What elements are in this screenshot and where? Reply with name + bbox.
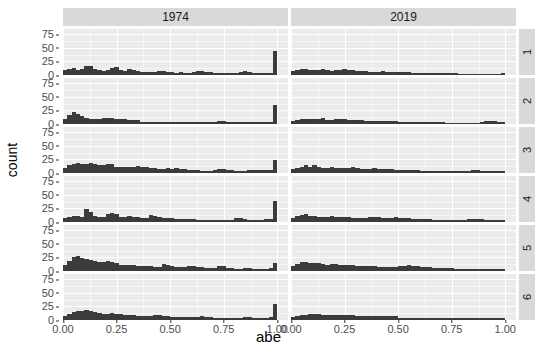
bar	[501, 269, 505, 271]
facet-strip-row-1: 1	[519, 29, 535, 75]
y-tick-75: 75	[42, 29, 54, 40]
y-tick-25: 25	[42, 154, 54, 165]
bar-series	[291, 225, 516, 271]
y-tick-25: 25	[42, 203, 54, 214]
y-tick-labels-row-1: 0255075	[22, 29, 60, 75]
facet-grid: 1974201902550751025507520255075302550754…	[22, 8, 535, 320]
y-tick-75: 75	[42, 78, 54, 89]
bar-series	[63, 29, 288, 75]
y-tick-50: 50	[42, 140, 54, 151]
facet-strip-row-label: 5	[521, 245, 533, 251]
panel-2019-2	[291, 78, 516, 124]
facet-strip-col-2019: 2019	[291, 8, 516, 26]
facet-strip-row-label: 6	[521, 294, 533, 300]
y-tick-labels-row-4: 0255075	[22, 176, 60, 222]
facet-strip-row-6: 6	[519, 274, 535, 320]
bar-series	[63, 78, 288, 124]
panel-2019-4	[291, 176, 516, 222]
y-axis-title-label: count	[4, 143, 20, 177]
panel-1974-2	[63, 78, 288, 124]
bar	[273, 160, 277, 173]
y-tick-75: 75	[42, 176, 54, 187]
facet-strip-row-label: 4	[521, 196, 533, 202]
bar	[273, 304, 277, 320]
y-tick-25: 25	[42, 301, 54, 312]
bar	[501, 122, 505, 124]
bar-series	[63, 127, 288, 173]
bar	[501, 220, 505, 222]
y-tick-labels-row-2: 0255075	[22, 78, 60, 124]
y-tick-50: 50	[42, 91, 54, 102]
bar	[273, 51, 277, 75]
y-tick-25: 25	[42, 105, 54, 116]
facet-strip-row-5: 5	[519, 225, 535, 271]
panel-2019-5	[291, 225, 516, 271]
facet-strip-row-2: 2	[519, 78, 535, 124]
bar-series	[291, 29, 516, 75]
bar-series	[291, 78, 516, 124]
x-axis-title: abe	[0, 328, 537, 345]
y-tick-75: 75	[42, 225, 54, 236]
y-tick-50: 50	[42, 238, 54, 249]
panel-1974-5	[63, 225, 288, 271]
panel-1974-4	[63, 176, 288, 222]
bar	[273, 263, 277, 271]
y-tick-75: 75	[42, 274, 54, 285]
panel-2019-3	[291, 127, 516, 173]
faceted-histogram-plot: count 1974201902550751025507520255075302…	[0, 0, 537, 355]
facet-strip-col-label: 1974	[162, 10, 189, 24]
bar-series	[63, 225, 288, 271]
x-axis-title-label: abe	[256, 328, 281, 345]
panel-1974-3	[63, 127, 288, 173]
bar	[273, 201, 277, 222]
y-tick-50: 50	[42, 42, 54, 53]
bar-series	[63, 176, 288, 222]
y-tick-50: 50	[42, 287, 54, 298]
y-tick-labels-row-5: 0255075	[22, 225, 60, 271]
y-tick-25: 25	[42, 252, 54, 263]
bar-series	[291, 127, 516, 173]
bar-series	[63, 274, 288, 320]
facet-strip-row-4: 4	[519, 176, 535, 222]
bar-series	[291, 176, 516, 222]
y-tick-labels-row-3: 0255075	[22, 127, 60, 173]
y-tick-75: 75	[42, 127, 54, 138]
panel-1974-1	[63, 29, 288, 75]
panel-1974-6	[63, 274, 288, 320]
panel-2019-1	[291, 29, 516, 75]
bar	[501, 73, 505, 75]
bar-series	[291, 274, 516, 320]
y-tick-50: 50	[42, 189, 54, 200]
panel-2019-6	[291, 274, 516, 320]
bar	[501, 171, 505, 173]
grid-corner-spacer	[22, 8, 60, 26]
y-tick-25: 25	[42, 56, 54, 67]
facet-strip-col-label: 2019	[390, 10, 417, 24]
facet-strip-row-label: 1	[521, 49, 533, 55]
facet-strip-row-label: 2	[521, 98, 533, 104]
y-tick-labels-row-6: 0255075	[22, 274, 60, 320]
facet-strip-row-label: 3	[521, 147, 533, 153]
facet-strip-row-3: 3	[519, 127, 535, 173]
facet-strip-col-1974: 1974	[63, 8, 288, 26]
grid-corner-spacer-right	[519, 8, 535, 26]
bar	[273, 105, 277, 124]
y-axis-title: count	[2, 0, 22, 320]
